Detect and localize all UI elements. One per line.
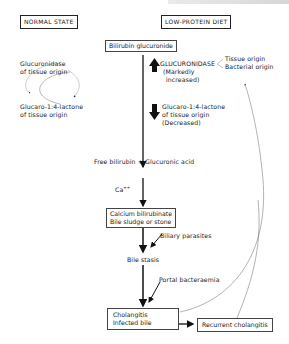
low-protein-diet-header: LOW-PROTEIN DIET [161, 15, 231, 29]
label-line: Glucaro-1:4-lactone [20, 103, 83, 111]
calcium-ion-charge: ++ [123, 185, 130, 190]
bile-stasis-label: Bile stasis [127, 256, 159, 264]
glucuronidase-note: increased) [160, 76, 215, 84]
label-line: of tissue origin [162, 111, 225, 119]
free-bilirubin-text: Free bilirubin + Glucuronic acid [94, 158, 194, 165]
box-line: Bile sludge or stone [110, 218, 172, 226]
label-line: Glucuronidase [20, 60, 67, 68]
box-line: Infected bile [113, 319, 173, 327]
glucaro-lactone-decreased-label: Glucaro-1:4-lactone of tissue origin (De… [162, 103, 225, 127]
bilirubin-glucuronide-label: Bilirubin glucuronide [109, 42, 173, 49]
label-line: Glucaro-1:4-lactone [162, 103, 225, 111]
glucuronidase-label: GLUCURONIDASE (Markedly increased) [160, 60, 215, 84]
free-bilirubin-label: Free bilirubin + Glucuronic acid [94, 158, 194, 166]
calcium-ion-label: Ca++ [115, 184, 130, 194]
glucuronidase-title: GLUCURONIDASE [160, 60, 215, 68]
box-line: Calcium bilirubinate [110, 210, 172, 218]
tissue-origin-label: Tissue origin [225, 55, 274, 63]
low-protein-diet-title: LOW-PROTEIN DIET [165, 18, 227, 25]
box-line: Cholangitis [113, 311, 173, 319]
portal-bacteraemia-text: Portal bacteraemia [159, 276, 220, 283]
label-line: (Decreased) [162, 119, 225, 127]
cholangitis-box: Cholangitis Infected bile [107, 308, 179, 330]
recurrent-cholangitis-text: Recurrent cholangitis [202, 321, 268, 328]
portal-bacteraemia-label: Portal bacteraemia [159, 276, 220, 284]
thick-up-arrow-icon [149, 58, 160, 72]
biliary-parasites-label: Biliary parasites [160, 232, 212, 240]
normal-state-header: NORMAL STATE [20, 15, 78, 29]
bile-stasis-text: Bile stasis [127, 256, 159, 263]
bacterial-origin-label: Bacterial origin [225, 63, 274, 71]
glucuronidase-note: (Markedly [160, 68, 215, 76]
recurrent-cholangitis-box: Recurrent cholangitis [197, 318, 273, 332]
calcium-bilirubinate-box: Calcium bilirubinate Bile sludge or ston… [106, 208, 176, 228]
normal-state-title: NORMAL STATE [24, 18, 74, 25]
bilirubin-glucuronide-box: Bilirubin glucuronide [105, 40, 177, 52]
thick-down-arrow-icon [149, 104, 160, 120]
label-line: of tissue origin [20, 111, 83, 119]
biliary-parasites-text: Biliary parasites [160, 232, 212, 239]
glucuronidase-origins: Tissue origin Bacterial origin [225, 55, 274, 71]
glucuronidase-tissue-label: Glucuronidase of tissue origin [20, 60, 67, 76]
label-line: of tissue origin [20, 68, 67, 76]
glucaro-lactone-tissue-label: Glucaro-1:4-lactone of tissue origin [20, 103, 83, 119]
